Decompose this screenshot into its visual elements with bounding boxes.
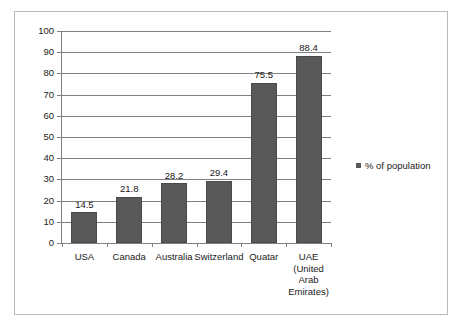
bar-value-label: 75.5 (254, 70, 273, 80)
bar[interactable] (296, 56, 322, 243)
x-axis-category-label: UAE(UnitedArabEmirates) (288, 251, 329, 297)
bar-group: 88.4UAE(UnitedArabEmirates) (286, 31, 331, 243)
bar-group: 28.2Australia (152, 31, 197, 243)
bar-value-label: 14.5 (75, 200, 94, 210)
y-axis-tick-label: 0 (49, 238, 54, 248)
bar-value-label: 29.4 (210, 168, 229, 178)
y-axis-tick-label: 40 (43, 153, 54, 163)
y-axis-tick-label: 100 (38, 26, 54, 36)
x-axis-category-label: Switzerland (194, 251, 243, 263)
x-tick-mark (62, 243, 63, 247)
bar[interactable] (161, 183, 187, 243)
y-axis-tick-label: 20 (43, 196, 54, 206)
x-axis-category-label: USA (75, 251, 95, 263)
y-axis-tick-label: 80 (43, 69, 54, 79)
y-axis-tick-label: 70 (43, 90, 54, 100)
bar[interactable] (251, 83, 277, 243)
bar[interactable] (116, 197, 142, 243)
x-tick-mark (107, 243, 108, 247)
x-axis-category-label: Canada (113, 251, 146, 263)
bar-value-label: 21.8 (120, 184, 139, 194)
y-axis-tick-label: 50 (43, 132, 54, 142)
y-axis-tick-label: 10 (43, 217, 54, 227)
x-tick-mark (241, 243, 242, 247)
bar[interactable] (206, 181, 232, 243)
bar-group: 14.5USA (62, 31, 107, 243)
bar-value-label: 88.4 (299, 43, 318, 53)
x-tick-mark (197, 243, 198, 247)
x-axis-category-label: Quatar (249, 251, 278, 263)
chart-legend: % of population (356, 161, 431, 171)
x-tick-mark (331, 243, 332, 247)
y-axis-tick-label: 30 (43, 175, 54, 185)
x-tick-mark (152, 243, 153, 247)
legend-label-percent-of-population: % of population (365, 161, 431, 171)
x-tick-mark (286, 243, 287, 247)
bar[interactable] (71, 212, 97, 243)
legend-swatch-percent-of-population (356, 163, 361, 168)
bar-group: 29.4Switzerland (197, 31, 242, 243)
bar-group: 21.8Canada (107, 31, 152, 243)
plot-area: 100908070605040302010014.5USA21.8Canada2… (62, 31, 331, 243)
bar-value-label: 28.2 (165, 171, 184, 181)
y-axis-tick-label: 60 (43, 111, 54, 121)
y-axis-tick-label: 90 (43, 47, 54, 57)
bar-group: 75.5Quatar (241, 31, 286, 243)
x-axis-category-label: Australia (156, 251, 193, 263)
chart-figure: 100908070605040302010014.5USA21.8Canada2… (14, 11, 448, 315)
